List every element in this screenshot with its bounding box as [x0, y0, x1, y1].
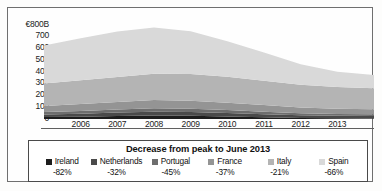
- legend-series-name: France: [217, 157, 242, 167]
- x-axis-tick: 2009: [182, 119, 200, 129]
- legend-swatch-icon: [268, 159, 274, 165]
- legend-item-france[interactable]: France-37%: [198, 157, 252, 177]
- x-axis-tick: 2013: [328, 119, 346, 129]
- x-axis-tick: 2006: [72, 119, 90, 129]
- legend-item-netherlands[interactable]: Netherlands-32%: [89, 157, 143, 177]
- legend-series-name: Italy: [277, 157, 291, 167]
- legend-series-name: Netherlands: [100, 157, 143, 167]
- legend-swatch-icon: [152, 159, 158, 165]
- plot-area: [44, 24, 374, 119]
- x-axis-tick: 2008: [145, 119, 163, 129]
- legend-item-header: France: [198, 157, 252, 167]
- legend-item-header: Portugal: [144, 157, 198, 167]
- legend-item-portugal[interactable]: Portugal-45%: [144, 157, 198, 177]
- legend-series-name: Spain: [328, 157, 348, 167]
- x-axis-tick: 2007: [108, 119, 126, 129]
- legend-series-change: -32%: [89, 168, 143, 178]
- legend-item-header: Ireland: [35, 157, 89, 167]
- legend-title: Decrease from peak to June 2013: [29, 144, 367, 155]
- legend-swatch-icon: [46, 159, 52, 165]
- legend-series-change: -37%: [198, 168, 252, 178]
- legend-series-change: -82%: [35, 168, 89, 178]
- legend-item-header: Netherlands: [89, 157, 143, 167]
- x-axis-tick: 2010: [218, 119, 236, 129]
- legend-items: Ireland-82%Netherlands-32%Portugal-45%Fr…: [29, 155, 367, 177]
- x-axis: 20062007200820092010201120122013: [44, 119, 374, 131]
- legend-item-header: Italy: [252, 157, 306, 167]
- x-axis-tick: 2011: [255, 119, 272, 129]
- area-chart-svg: [44, 24, 374, 119]
- legend-swatch-icon: [319, 159, 325, 165]
- legend-item-italy[interactable]: Italy-21%: [252, 157, 306, 177]
- legend-swatch-icon: [91, 159, 97, 165]
- legend-series-change: -21%: [252, 168, 306, 178]
- figure-frame: €800B7006005004003002001000 200620072008…: [7, 7, 373, 182]
- legend-item-ireland[interactable]: Ireland-82%: [35, 157, 89, 177]
- legend-series-name: Portugal: [161, 157, 190, 167]
- legend-swatch-icon: [208, 159, 214, 165]
- x-axis-tick: 2012: [292, 119, 310, 129]
- stacked-area-plot: [44, 24, 374, 119]
- legend-series-change: -66%: [307, 168, 361, 178]
- chart-figure: €800B7006005004003002001000 200620072008…: [0, 0, 382, 191]
- legend-series-name: Ireland: [55, 157, 79, 167]
- legend-series-change: -45%: [144, 168, 198, 178]
- legend-box: Decrease from peak to June 2013 Ireland-…: [28, 140, 368, 182]
- legend-item-spain[interactable]: Spain-66%: [307, 157, 361, 177]
- legend-item-header: Spain: [307, 157, 361, 167]
